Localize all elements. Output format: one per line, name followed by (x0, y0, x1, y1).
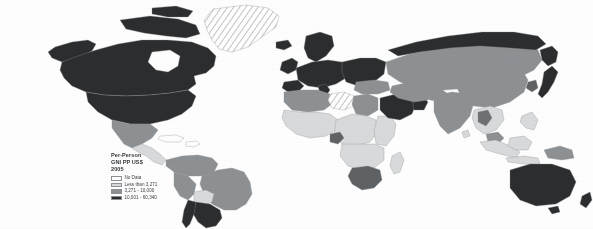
region-turkey (354, 80, 390, 94)
legend-label-no-data: No Data (124, 176, 141, 181)
legend-label-middle: 3,271 - 10,000 (124, 189, 154, 194)
legend-entry-high: 10,001 - 60,340 (111, 195, 183, 201)
legend-swatch-no-data (111, 176, 122, 181)
world-choropleth-map (0, 0, 593, 229)
legend-swatch-low (111, 183, 122, 188)
legend-title-line-1: Per-Person (111, 153, 183, 159)
legend-entry-no-data: No Data (111, 176, 183, 182)
legend-swatch-middle (111, 189, 122, 194)
world-map-screenshot: Per-Person GNI PP US$ 2005 No Data Less … (0, 0, 593, 229)
map-legend: Per-Person GNI PP US$ 2005 No Data Less … (111, 153, 183, 202)
region-morocco-algeria (284, 90, 332, 112)
legend-label-low: Less than 3,271 (124, 183, 157, 188)
legend-entry-middle: 3,271 - 10,000 (111, 189, 183, 195)
region-libya (328, 92, 354, 110)
legend-entry-low: Less than 3,271 (111, 182, 183, 188)
legend-title-line-3: 2005 (111, 167, 183, 173)
legend-label-high: 10,001 - 60,340 (124, 196, 156, 201)
legend-entry-list: No Data Less than 3,271 3,271 - 10,000 1… (111, 176, 183, 201)
region-central-asia (400, 70, 458, 90)
legend-swatch-high (111, 196, 122, 201)
legend-title-line-2: GNI PP US$ (111, 160, 183, 166)
